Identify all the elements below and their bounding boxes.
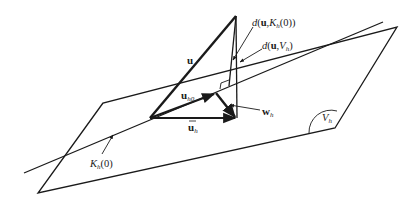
perp-line-kh: [229, 16, 236, 86]
label-kh0: Kh(0): [89, 158, 113, 171]
label-d-u-kh0: d(u,Kh(0)): [252, 17, 296, 30]
perp-line-vh: [236, 16, 237, 118]
label-wh: wh: [262, 105, 274, 119]
pointer-d-vh: [240, 49, 262, 62]
pointer-wh: [230, 105, 260, 110]
label-uh0: uh0: [181, 89, 195, 103]
label-ubar-h: uh: [188, 121, 198, 135]
label-vh: Vh: [322, 112, 332, 125]
label-d-u-vh: d(u,Vh): [262, 40, 293, 53]
label-u: u: [187, 54, 193, 66]
diagram-canvas: u uh0 uh wh d(u,Kh(0)) d(u,Vh) Kh(0) Vh: [0, 0, 415, 209]
